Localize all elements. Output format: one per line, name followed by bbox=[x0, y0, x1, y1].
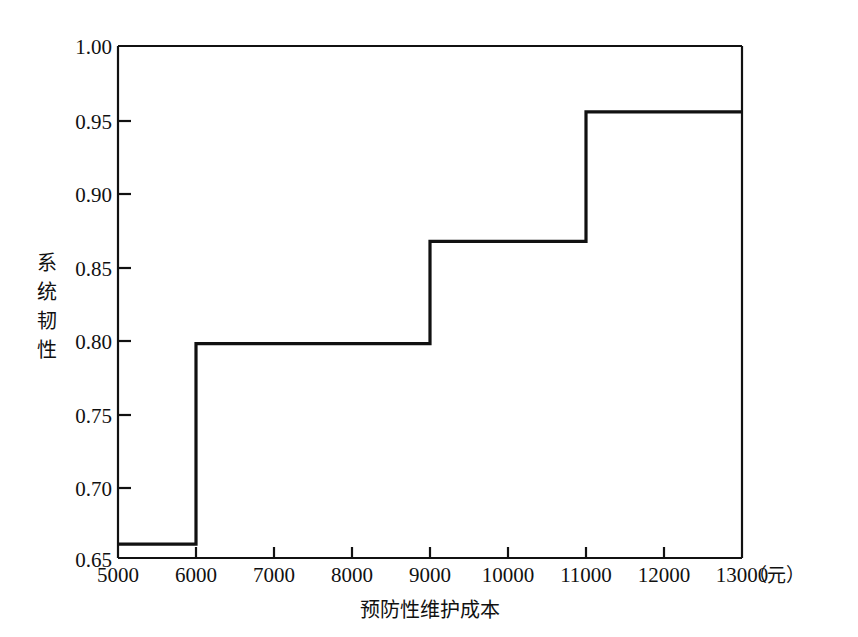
step-chart: 1.00 0.95 0.90 0.85 0.80 0.75 0.70 0.65 … bbox=[0, 0, 858, 637]
y-tick-marks bbox=[118, 121, 131, 488]
y-tick-label: 0.75 bbox=[75, 404, 112, 428]
x-tick-label: 5000 bbox=[97, 563, 139, 587]
x-tick-label: 11000 bbox=[560, 563, 612, 587]
x-tick-label: 7000 bbox=[253, 563, 295, 587]
x-tick-label: 9000 bbox=[409, 563, 451, 587]
y-axis-title-char: 韧 bbox=[32, 307, 62, 336]
y-axis-title-char: 性 bbox=[32, 336, 62, 365]
y-tick-label: 0.70 bbox=[75, 477, 112, 501]
chart-figure: 1.00 0.95 0.90 0.85 0.80 0.75 0.70 0.65 … bbox=[0, 0, 858, 637]
y-tick-labels: 1.00 0.95 0.90 0.85 0.80 0.75 0.70 0.65 bbox=[75, 35, 112, 572]
x-tick-labels: 5000 6000 7000 8000 9000 10000 11000 120… bbox=[97, 563, 768, 587]
x-tick-label: 8000 bbox=[331, 563, 373, 587]
y-tick-label: 0.90 bbox=[75, 183, 112, 207]
y-tick-label: 0.95 bbox=[75, 110, 112, 134]
x-tick-label: 6000 bbox=[175, 563, 217, 587]
y-tick-label: 0.85 bbox=[75, 257, 112, 281]
y-axis-title-char: 统 bbox=[32, 278, 62, 307]
x-tick-label: 12000 bbox=[638, 563, 691, 587]
y-axis-title-char: 系 bbox=[32, 249, 62, 278]
x-tick-marks bbox=[196, 547, 664, 558]
y-tick-label: 1.00 bbox=[75, 35, 112, 59]
x-tick-label: 10000 bbox=[482, 563, 535, 587]
y-axis-title: 系 统 韧 性 bbox=[32, 249, 62, 365]
x-axis-title: 预防性维护成本 bbox=[360, 598, 500, 622]
x-axis-unit: （元） bbox=[748, 564, 805, 586]
y-tick-label: 0.80 bbox=[75, 330, 112, 354]
step-series-line bbox=[118, 112, 742, 544]
